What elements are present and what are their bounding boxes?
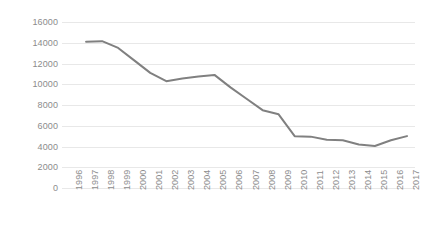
line-chart: 0200040006000800010000120001400016000 19… [0, 0, 435, 240]
x-tick-label: 1999 [122, 170, 132, 190]
x-tick-label: 1997 [90, 170, 100, 190]
plot-area [62, 22, 415, 188]
x-tick-label: 2004 [202, 170, 212, 190]
y-tick-label: 8000 [2, 100, 58, 110]
x-tick-label: 2005 [218, 170, 228, 190]
y-tick-label: 4000 [2, 142, 58, 152]
x-tick-label: 2008 [267, 170, 277, 190]
x-tick-label: 1998 [106, 170, 116, 190]
x-tick-label: 2015 [379, 170, 389, 190]
x-tick-label: 1996 [74, 170, 84, 190]
y-tick-label: 12000 [2, 59, 58, 69]
x-tick-label: 2002 [170, 170, 180, 190]
x-tick-label: 2006 [234, 170, 244, 190]
x-tick-label: 2011 [315, 170, 325, 190]
x-tick-label: 2014 [363, 170, 373, 190]
x-tick-label: 2003 [186, 170, 196, 190]
series-line [86, 41, 407, 146]
x-tick-label: 2012 [331, 170, 341, 190]
x-tick-label: 2001 [154, 170, 164, 190]
y-tick-label: 0 [2, 183, 58, 193]
x-tick-label: 2010 [299, 170, 309, 190]
y-tick-label: 14000 [2, 38, 58, 48]
y-tick-label: 6000 [2, 121, 58, 131]
y-tick-label: 16000 [2, 17, 58, 27]
series-line-group [62, 22, 415, 188]
x-tick-label: 2007 [251, 170, 261, 190]
x-tick-label: 2000 [138, 170, 148, 190]
y-axis: 0200040006000800010000120001400016000 [0, 22, 58, 188]
x-tick-label: 2013 [347, 170, 357, 190]
y-tick-label: 10000 [2, 79, 58, 89]
y-tick-label: 2000 [2, 162, 58, 172]
x-axis: 1996199719981999200020012002200320042005… [62, 190, 415, 240]
x-tick-label: 2016 [395, 170, 405, 190]
x-tick-label: 2009 [283, 170, 293, 190]
x-tick-label: 2017 [411, 170, 421, 190]
